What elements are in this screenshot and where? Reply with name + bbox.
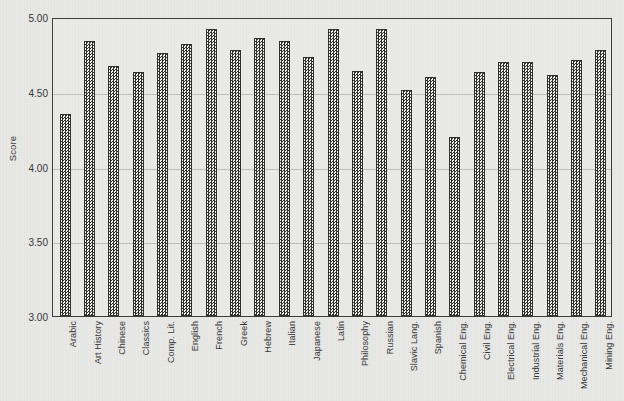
- x-tick-label: Hebrew: [263, 321, 273, 353]
- x-tick-label: Electrical Eng.: [506, 321, 516, 380]
- y-tick-label: 4.50: [2, 87, 48, 98]
- bar: [522, 62, 533, 316]
- x-tick-label: English: [190, 321, 200, 351]
- x-tick-label: Industrial Eng.: [531, 321, 541, 380]
- bar: [60, 114, 71, 316]
- bar: [547, 75, 558, 316]
- x-tick-label: Japanese: [312, 321, 322, 361]
- bar: [449, 137, 460, 316]
- x-tick-label: Chinese: [117, 321, 127, 355]
- bar: [401, 90, 412, 316]
- x-tick-label: Italian: [287, 321, 297, 346]
- y-tick-label: 3.00: [2, 312, 48, 323]
- y-tick-label: 4.00: [2, 162, 48, 173]
- bar: [571, 60, 582, 316]
- bar: [230, 50, 241, 316]
- bars-layer: [53, 19, 611, 316]
- bar-chart-figure: Score 5.004.504.003.503.00 ArabicArt His…: [0, 0, 624, 401]
- x-tick-label: Civil Eng.: [482, 321, 492, 360]
- bar: [595, 50, 606, 316]
- x-tick-label: Mining Eng.: [604, 321, 614, 370]
- bar: [376, 29, 387, 316]
- y-tick-label: 3.50: [2, 237, 48, 248]
- bar: [425, 77, 436, 316]
- bar: [181, 44, 192, 316]
- x-tick-label: Classics: [141, 321, 151, 355]
- bar: [254, 38, 265, 316]
- bar: [474, 72, 485, 316]
- y-tick-label: 5.00: [2, 13, 48, 24]
- bar: [303, 57, 314, 316]
- bar: [328, 29, 339, 316]
- bar: [108, 66, 119, 316]
- bar: [133, 72, 144, 316]
- bar: [157, 53, 168, 316]
- x-tick-label: Latin: [336, 321, 346, 341]
- bar: [279, 41, 290, 316]
- x-axis-tick-labels: ArabicArt HistoryChineseClassicsComp. Li…: [52, 319, 612, 401]
- x-tick-label: Philosophy: [360, 321, 370, 366]
- x-tick-label: Comp. Lit.: [166, 321, 176, 363]
- x-tick-label: Art History: [93, 321, 103, 364]
- bar: [352, 71, 363, 316]
- x-tick-label: Materials Eng.: [555, 321, 565, 380]
- y-axis-tick-labels: 5.004.504.003.503.00: [0, 0, 48, 401]
- bar: [206, 29, 217, 316]
- x-tick-label: French: [214, 321, 224, 350]
- x-tick-label: Russian: [385, 321, 395, 354]
- bar: [498, 62, 509, 316]
- x-tick-label: Mechanical Eng.: [579, 321, 589, 389]
- x-tick-label: Greek: [239, 321, 249, 346]
- x-tick-label: Arabic: [68, 321, 78, 347]
- x-tick-label: Slavic Lang.: [409, 321, 419, 371]
- x-tick-label: Chemical Eng.: [458, 321, 468, 381]
- x-tick-label: Spanish: [433, 321, 443, 354]
- plot-area: [52, 18, 612, 317]
- bar: [84, 41, 95, 316]
